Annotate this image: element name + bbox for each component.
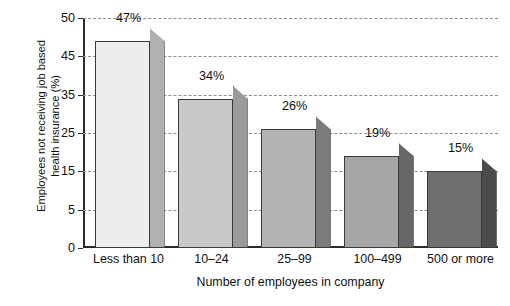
x-tick-label: 100–499 bbox=[353, 252, 401, 266]
y-tick-label: 50 bbox=[61, 11, 75, 25]
y-axis-title-line1: Employees not receiving job based bbox=[34, 2, 48, 250]
x-tick-label: 25–99 bbox=[277, 252, 311, 266]
bar-front-face bbox=[178, 99, 233, 249]
bar-value-label: 19% bbox=[344, 126, 412, 140]
bar-value-label: 15% bbox=[427, 141, 495, 155]
bar-4: 19% bbox=[344, 143, 399, 248]
bar-front-face bbox=[427, 171, 482, 248]
x-tick-label: Less than 10 bbox=[93, 252, 164, 266]
y-axis-title-line2: health insurance (%) bbox=[48, 2, 62, 250]
bar-2: 34% bbox=[178, 86, 233, 249]
bar-side-face bbox=[316, 116, 331, 248]
bar-side-face bbox=[150, 28, 165, 248]
y-tick-label: 45 bbox=[61, 49, 75, 63]
y-tick-label: 35 bbox=[61, 88, 75, 102]
bar-1: 47% bbox=[95, 28, 150, 248]
bar-value-label: 26% bbox=[261, 99, 329, 113]
x-axis-tick-labels: Less than 1010–2425–99100–499500 or more bbox=[83, 252, 498, 270]
bar-side-face bbox=[482, 158, 497, 248]
x-tick-label: 10–24 bbox=[194, 252, 228, 266]
y-tick-label: 25 bbox=[61, 126, 75, 140]
bar-chart-figure: Employees not receiving job based health… bbox=[0, 0, 510, 306]
bar-front-face bbox=[344, 156, 399, 248]
bar-side-face bbox=[233, 86, 248, 249]
x-axis-title: Number of employees in company bbox=[83, 275, 498, 289]
bar-front-face bbox=[95, 41, 150, 248]
x-tick-label: 500 or more bbox=[427, 252, 494, 266]
y-tick-label: 5 bbox=[68, 203, 75, 217]
bar-value-label: 34% bbox=[178, 69, 246, 83]
bar-front-face bbox=[261, 129, 316, 248]
bar-value-label: 47% bbox=[95, 11, 163, 25]
bar-5: 15% bbox=[427, 158, 482, 248]
bar-3: 26% bbox=[261, 116, 316, 248]
y-tick-label: 15 bbox=[61, 164, 75, 178]
y-axis-title: Employees not receiving job based health… bbox=[34, 2, 62, 250]
plot-area: 504535251550 47%34%26%19%15% bbox=[83, 18, 498, 248]
y-tick-mark bbox=[78, 248, 83, 249]
bar-side-face bbox=[399, 143, 414, 248]
bars-layer: 47%34%26%19%15% bbox=[83, 18, 498, 248]
y-tick-label: 0 bbox=[68, 241, 75, 255]
